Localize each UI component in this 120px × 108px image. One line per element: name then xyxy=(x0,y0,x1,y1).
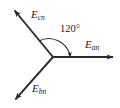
phasor-label-ean-symbol: E xyxy=(85,38,92,50)
phasor-label-ebn-subscript: bn xyxy=(39,87,47,96)
phasor-label-ean: Ean xyxy=(85,39,99,52)
phasor-label-ean-subscript: an xyxy=(92,43,100,52)
angle-arc-120 xyxy=(39,39,71,57)
phasor-diagram-figure: Ecn Ean Ebn 120° xyxy=(0,0,120,108)
phasor-label-ebn-symbol: E xyxy=(32,82,39,94)
phasor-label-ecn-symbol: E xyxy=(31,8,38,20)
angle-label-120: 120° xyxy=(60,24,80,35)
phasor-label-ebn: Ebn xyxy=(32,83,46,96)
phasor-diagram-canvas xyxy=(0,0,120,108)
phasor-label-ecn: Ecn xyxy=(31,9,45,22)
phasor-label-ecn-subscript: cn xyxy=(38,13,45,22)
